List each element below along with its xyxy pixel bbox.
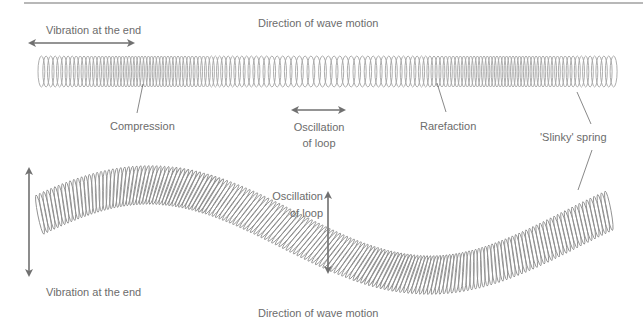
vibration-label-bottom: Vibration at the end — [46, 286, 141, 299]
slinky-leader-top — [577, 92, 591, 124]
oscillation-label-bottom-line1: Oscillation — [269, 190, 323, 203]
slinky-spring-label: 'Slinky' spring — [540, 131, 607, 144]
direction-label-bottom: Direction of wave motion — [258, 307, 378, 320]
oscillation-label-top: Oscillation of loop — [293, 121, 345, 150]
compression-leader — [137, 84, 143, 113]
longitudinal-spring — [38, 56, 617, 87]
oscillation-label-top-line2: of loop — [293, 137, 345, 150]
oscillation-label-bottom-line2: of loop — [269, 207, 323, 220]
oscillation-label-bottom: Oscillation of loop — [269, 190, 323, 220]
rarefaction-label: Rarefaction — [420, 120, 476, 133]
compression-label: Compression — [110, 120, 175, 133]
direction-label-top: Direction of wave motion — [258, 17, 378, 30]
transverse-spring — [34, 165, 615, 295]
slinky-diagram-art — [0, 0, 643, 335]
vibration-label-top: Vibration at the end — [46, 24, 141, 37]
oscillation-label-top-line1: Oscillation — [293, 121, 345, 134]
slinky-leader-bottom — [578, 150, 592, 190]
